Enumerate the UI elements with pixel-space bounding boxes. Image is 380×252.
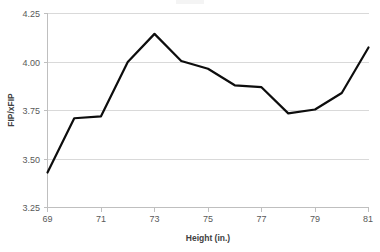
x-tick-label-1: 71 xyxy=(96,214,106,224)
y-tick-label-2: 3.75 xyxy=(22,106,40,116)
data-series-line xyxy=(48,34,369,173)
y-tick-label-3: 4.00 xyxy=(22,58,40,68)
y-axis-tick-labels: 4.25 4.00 3.75 3.50 3.25 xyxy=(22,9,40,213)
y-axis-ticks xyxy=(44,14,48,208)
x-axis-title: Height (in.) xyxy=(186,233,231,243)
x-tick-label-2: 73 xyxy=(149,214,159,224)
x-tick-label-6: 81 xyxy=(363,214,373,224)
y-tick-label-0: 3.25 xyxy=(22,203,40,213)
y-axis-title: FIP/xFIP xyxy=(6,93,16,127)
x-tick-label-4: 77 xyxy=(256,214,266,224)
x-tick-label-3: 75 xyxy=(203,214,213,224)
line-chart: 4.25 4.00 3.75 3.50 3.25 69 71 73 75 77 … xyxy=(0,0,380,252)
x-axis-ticks xyxy=(48,208,369,212)
x-tick-label-0: 69 xyxy=(42,214,52,224)
y-tick-label-1: 3.50 xyxy=(22,155,40,165)
x-tick-label-5: 79 xyxy=(310,214,320,224)
chart-canvas: 4.25 4.00 3.75 3.50 3.25 69 71 73 75 77 … xyxy=(0,0,380,252)
gridlines xyxy=(48,14,369,160)
y-tick-label-4: 4.25 xyxy=(22,9,40,19)
x-axis-tick-labels: 69 71 73 75 77 79 81 xyxy=(42,214,373,224)
